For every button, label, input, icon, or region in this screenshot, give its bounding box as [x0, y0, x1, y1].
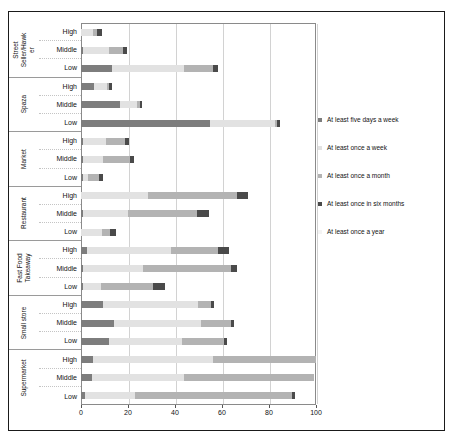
bar-segment[interactable]: [140, 101, 142, 108]
bar-segment[interactable]: [143, 265, 231, 272]
bar-segment[interactable]: [106, 138, 125, 145]
bar-segment[interactable]: [153, 283, 165, 290]
bar-segment[interactable]: [218, 247, 229, 254]
bar-group: [81, 187, 316, 242]
level-label-low: Low: [39, 169, 81, 186]
bar-segment[interactable]: [231, 320, 233, 327]
bar-segment[interactable]: [125, 138, 129, 145]
bar-segment[interactable]: [198, 301, 211, 308]
bar-segment[interactable]: [128, 210, 197, 217]
bar-segment[interactable]: [87, 247, 172, 254]
bar-segment[interactable]: [197, 210, 209, 217]
bar-segment[interactable]: [94, 83, 107, 90]
stacked-bar[interactable]: [81, 83, 112, 90]
bar-segment[interactable]: [103, 301, 198, 308]
bar-segment[interactable]: [213, 65, 219, 72]
stacked-bar[interactable]: [81, 192, 248, 199]
bar-segment[interactable]: [83, 47, 109, 54]
bar-segment[interactable]: [277, 120, 279, 127]
bar-segment[interactable]: [83, 283, 101, 290]
bar-segment[interactable]: [92, 374, 185, 381]
bar-segment[interactable]: [182, 338, 224, 345]
bar-segment[interactable]: [171, 247, 218, 254]
bar-segment[interactable]: [88, 174, 100, 181]
stacked-bar[interactable]: [81, 29, 102, 36]
bar-segment[interactable]: [81, 229, 102, 236]
stacked-bar[interactable]: [81, 356, 316, 363]
bar-segment[interactable]: [211, 301, 213, 308]
bar-segment[interactable]: [81, 356, 93, 363]
stacked-bar[interactable]: [81, 101, 142, 108]
legend-item[interactable]: At least once a week: [318, 144, 443, 172]
stacked-bar[interactable]: [81, 120, 280, 127]
group-label: Market: [9, 132, 39, 186]
stacked-bar[interactable]: [81, 392, 295, 399]
bar-segment[interactable]: [123, 47, 127, 54]
stacked-bar[interactable]: [81, 229, 116, 236]
bar-segment[interactable]: [97, 29, 102, 36]
bar-segment[interactable]: [184, 65, 212, 72]
bar-segment[interactable]: [81, 320, 114, 327]
bar-segment[interactable]: [81, 65, 112, 72]
bar-segment[interactable]: [85, 392, 136, 399]
stacked-bar[interactable]: [81, 283, 165, 290]
stacked-bar[interactable]: [81, 210, 209, 217]
bar-segment[interactable]: [83, 210, 128, 217]
bar-segment[interactable]: [292, 392, 294, 399]
bar-segment[interactable]: [135, 392, 292, 399]
bar-segment[interactable]: [81, 29, 93, 36]
stacked-bar[interactable]: [81, 138, 129, 145]
bar-segment[interactable]: [83, 265, 143, 272]
bar-segment[interactable]: [110, 229, 116, 236]
bar-segment[interactable]: [148, 192, 237, 199]
bar-segment[interactable]: [231, 265, 237, 272]
stacked-bar[interactable]: [81, 47, 127, 54]
bar-segment[interactable]: [103, 156, 130, 163]
bar-segment[interactable]: [120, 101, 138, 108]
legend-item[interactable]: At least once a month: [318, 172, 443, 200]
legend-item[interactable]: At least once a year: [318, 228, 443, 256]
bar-segment[interactable]: [81, 120, 210, 127]
level-labels: HighMiddleLow: [39, 241, 81, 295]
x-tick-label: 0: [79, 409, 83, 416]
bar-segment[interactable]: [81, 301, 103, 308]
stacked-bar[interactable]: [81, 156, 134, 163]
bar-segment[interactable]: [224, 338, 226, 345]
bar-segment[interactable]: [99, 174, 103, 181]
level-labels: HighMiddleLow: [39, 23, 81, 77]
stacked-bar[interactable]: [81, 247, 229, 254]
bar-segment[interactable]: [237, 192, 248, 199]
stacked-bar[interactable]: [81, 320, 234, 327]
category-group: SupermarketHighMiddleLow: [9, 350, 81, 405]
legend-item[interactable]: At least five days a week: [318, 116, 443, 144]
stacked-bar[interactable]: [81, 374, 314, 381]
bar-segment[interactable]: [130, 156, 134, 163]
bar-segment[interactable]: [81, 83, 94, 90]
bar-segment[interactable]: [102, 229, 110, 236]
bar-segment[interactable]: [101, 283, 154, 290]
stacked-bar[interactable]: [81, 301, 214, 308]
bar-segment[interactable]: [114, 320, 201, 327]
stacked-bar[interactable]: [81, 338, 227, 345]
stacked-bar[interactable]: [81, 265, 237, 272]
bar-segment[interactable]: [81, 101, 120, 108]
legend-item[interactable]: At least once in six months: [318, 200, 443, 228]
bar-segment[interactable]: [201, 320, 232, 327]
bar-segment[interactable]: [109, 338, 182, 345]
bar-segment[interactable]: [83, 156, 103, 163]
bar-segment[interactable]: [81, 338, 109, 345]
legend-swatch-icon: [318, 230, 322, 234]
stacked-bar[interactable]: [81, 174, 103, 181]
bar-segment[interactable]: [184, 374, 313, 381]
bar-segment[interactable]: [81, 374, 92, 381]
bar-segment[interactable]: [109, 47, 123, 54]
bar-segment[interactable]: [213, 356, 316, 363]
bar-segment[interactable]: [109, 83, 111, 90]
bar-segment[interactable]: [210, 120, 275, 127]
bar-segment[interactable]: [112, 65, 185, 72]
stacked-bar[interactable]: [81, 65, 218, 72]
bar-segment[interactable]: [83, 138, 107, 145]
bar-row: [81, 350, 316, 368]
bar-segment[interactable]: [93, 356, 213, 363]
bar-segment[interactable]: [81, 192, 148, 199]
